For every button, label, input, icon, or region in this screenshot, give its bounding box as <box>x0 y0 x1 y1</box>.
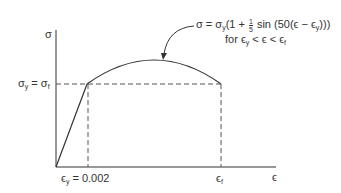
plastic-curve <box>87 60 221 84</box>
x-axis-label: ϵ <box>272 172 277 183</box>
failure-strain-label: ϵf <box>216 173 223 185</box>
equation-line-2: for ϵy < ϵ < ϵf <box>225 34 286 46</box>
yield-strain-label: ϵy = 0.002 <box>61 173 109 185</box>
equation-line-1: σ = σy(1 + 15 sin (50(ϵ − ϵy))) <box>196 18 330 33</box>
arrow-head-icon <box>161 53 167 60</box>
leader-arrow <box>164 26 194 54</box>
fraction: 15 <box>249 18 253 33</box>
y-axis-label: σ <box>45 29 52 40</box>
elastic-segment <box>56 84 87 167</box>
yield-stress-label: σy = σf <box>18 78 50 90</box>
